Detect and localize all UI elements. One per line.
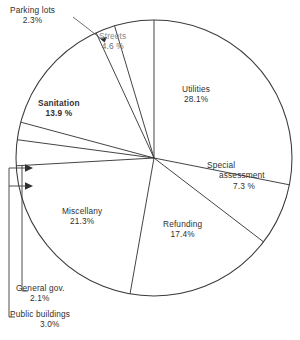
slice-label-utilities-name: Utilities (182, 84, 210, 94)
slice-label-parking-lots: Parking lots 2.3% (10, 5, 55, 26)
slice-label-public-buildings: Public buildings 3.0% (10, 309, 70, 330)
pie-divider-refunding-miscellany (130, 158, 154, 294)
slice-label-sanitation: Sanitation 13.9 % (38, 98, 80, 119)
slice-label-parking-lots-name: Parking lots (10, 5, 55, 15)
slice-label-special-assessment: Special assessment 7.3 % (207, 160, 265, 191)
pie-chart-figure: Parking lots 2.3% Streets 4.6 % Sanitati… (0, 0, 300, 340)
pie-divider-publicbuildings-generalgov (17, 140, 154, 158)
slice-label-refunding-name: Refunding (163, 219, 202, 229)
pie-divider-miscellany-publicbuildings (16, 158, 154, 166)
slice-label-refunding-value: 17.4% (163, 229, 202, 239)
slice-label-general-gov: General gov. 2.1% (16, 283, 65, 304)
slice-label-special-assessment-name-line2: assessment (207, 170, 265, 180)
slice-label-miscellany: Miscellany 21.3% (62, 206, 102, 227)
slice-label-general-gov-value: 2.1% (16, 293, 65, 303)
slice-label-parking-lots-value: 2.3% (10, 15, 55, 25)
slice-label-public-buildings-name: Public buildings (10, 309, 70, 319)
slice-label-utilities: Utilities 28.1% (182, 84, 210, 105)
pie-divider-generalgov-sanitation (21, 122, 154, 158)
slice-label-streets-name: Streets (99, 31, 126, 41)
slice-label-miscellany-value: 21.3% (62, 216, 102, 226)
slice-label-utilities-value: 28.1% (182, 94, 210, 104)
slice-label-general-gov-name: General gov. (16, 283, 65, 293)
slice-label-sanitation-value: 13.9 % (38, 108, 80, 118)
slice-label-special-assessment-name-line1: Special (207, 160, 265, 170)
slice-label-streets: Streets 4.6 % (99, 31, 126, 52)
slice-label-miscellany-name: Miscellany (62, 206, 102, 216)
slice-label-special-assessment-value: 7.3 % (207, 181, 265, 191)
slice-label-public-buildings-value: 3.0% (10, 319, 70, 329)
slice-label-streets-value: 4.6 % (99, 41, 126, 51)
slice-label-sanitation-name: Sanitation (38, 98, 80, 108)
slice-label-refunding: Refunding 17.4% (163, 219, 202, 240)
arrowhead-general-gov (25, 182, 33, 190)
